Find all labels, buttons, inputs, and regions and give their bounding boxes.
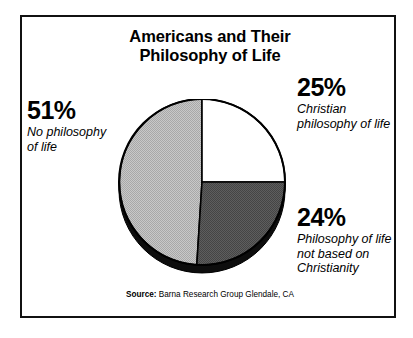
callout-no-philosophy-description: No philosophy of life <box>27 125 117 154</box>
callout-christian-percent: 25% <box>297 74 402 100</box>
pie-slice-christian <box>202 99 285 182</box>
pie-chart <box>99 99 305 295</box>
figure-border: Americans and Their Philosophy of Life <box>20 15 396 318</box>
pie-chart-svg <box>99 99 305 295</box>
title-line-1: Americans and Their <box>22 27 398 46</box>
callout-non-christian: 24% Philosophy of life not based on Chri… <box>297 204 402 276</box>
source-text: Barna Research Group Glendale, CA <box>159 290 294 299</box>
source-label: Source: <box>126 290 156 299</box>
pie-slice-no-philosophy <box>120 99 202 265</box>
pie-slice-non-christian <box>197 182 285 265</box>
callout-no-philosophy: 51% No philosophy of life <box>27 97 117 154</box>
callout-christian-description: Christian philosophy of life <box>297 102 402 131</box>
source-attribution: Source: Barna Research Group Glendale, C… <box>22 290 398 300</box>
title-line-2: Philosophy of Life <box>22 46 398 65</box>
callout-non-christian-description: Philosophy of life not based on Christia… <box>297 232 402 276</box>
callout-non-christian-percent: 24% <box>297 204 402 230</box>
pie-chart-figure: Americans and Their Philosophy of Life <box>0 0 413 338</box>
callout-no-philosophy-percent: 51% <box>27 97 117 123</box>
callout-christian: 25% Christian philosophy of life <box>297 74 402 131</box>
page-title: Americans and Their Philosophy of Life <box>22 27 398 65</box>
